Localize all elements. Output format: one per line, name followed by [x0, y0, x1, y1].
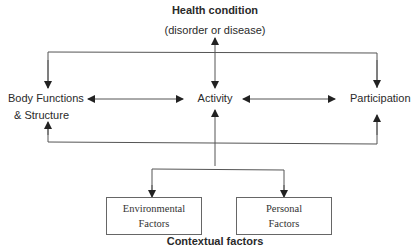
- top-connector-line: [48, 52, 377, 88]
- contextual-split-line: [152, 169, 284, 196]
- body-structure-label: & Structure: [14, 109, 69, 121]
- body-functions-label: Body Functions: [8, 92, 84, 104]
- contextual-factors-title: Contextual factors: [167, 235, 264, 247]
- bottom-connector-line: [48, 117, 377, 144]
- participation-label: Participation: [350, 92, 411, 104]
- personal-factors-label: Factors: [269, 218, 300, 229]
- environmental-factors-label: Factors: [139, 218, 170, 229]
- activity-label: Activity: [198, 92, 233, 104]
- personal-label: Personal: [266, 203, 302, 214]
- environmental-label: Environmental: [123, 203, 185, 214]
- health-condition-subtitle: (disorder or disease): [165, 24, 266, 36]
- icf-diagram: Health condition (disorder or disease) B…: [0, 0, 415, 249]
- health-condition-title: Health condition: [172, 4, 258, 16]
